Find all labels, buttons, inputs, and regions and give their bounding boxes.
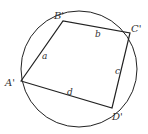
vertex-label-d: D' [111,111,123,122]
vertex-label-c: C' [131,23,141,34]
side-label-c: c [115,66,120,76]
vertex-label-a: A' [4,77,15,88]
cyclic-quadrilateral-diagram: A' B' C' D' a b c d [0,0,148,134]
vertex-label-b: B' [53,10,64,21]
side-label-a: a [42,51,47,61]
side-label-b: b [95,29,101,39]
quadrilateral [21,21,130,108]
side-label-d: d [67,87,73,97]
